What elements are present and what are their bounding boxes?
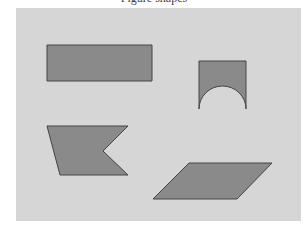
rectangle-shape: [47, 45, 152, 81]
arch-shape: [199, 61, 246, 109]
flag-pentagon-shape: [47, 126, 128, 175]
parallelogram-shape: [153, 163, 272, 199]
shapes-canvas: [0, 0, 308, 228]
